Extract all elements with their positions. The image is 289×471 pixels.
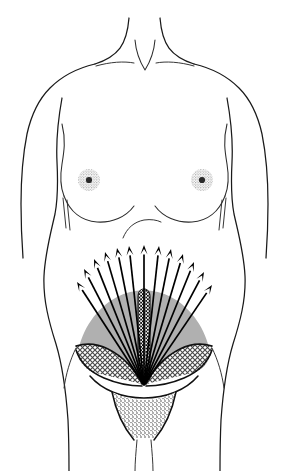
arrow-head [104,252,111,262]
inner-thigh-left [135,440,137,471]
arrow-head [127,246,134,256]
figure-root [0,0,289,471]
arrow-head [84,269,91,279]
arrow-head [187,262,194,272]
arrow-head [115,248,122,258]
arrow-head [141,245,148,255]
suprasternal-notch [135,40,155,70]
arrow-head [77,282,85,292]
arrow-head [177,254,184,264]
arrow-head [166,249,173,259]
neck-right-outline [160,18,194,64]
clavicle-right [156,62,194,66]
inguinal-fold-right [212,348,224,388]
breast-right-upper-contour [225,124,229,196]
torso-diagram [0,0,289,471]
shoulder-arm-right-outline [194,64,268,258]
arrow-head [155,246,162,256]
torso-right-outline [220,98,245,471]
breast-left-lower-contour [64,196,134,222]
breast-left-upper-contour [61,124,65,196]
torso-left-outline [44,98,69,471]
clavicle-left [96,62,134,66]
nipple-right [199,177,205,183]
neck-left-outline [95,18,129,64]
umbilicus [123,220,161,238]
inner-thigh-right [151,440,153,471]
arrow-head [204,285,212,295]
inguinal-fold-left [64,348,76,388]
breast-right-lower-contour [155,196,225,222]
shoulder-arm-left-outline [21,64,95,258]
axilla-crease-left [63,198,66,228]
arrow-head [94,259,101,269]
nipple-left [86,177,92,183]
arrow-head [196,272,204,282]
axilla-crease-right [223,198,226,228]
pubic-zone [112,392,176,438]
